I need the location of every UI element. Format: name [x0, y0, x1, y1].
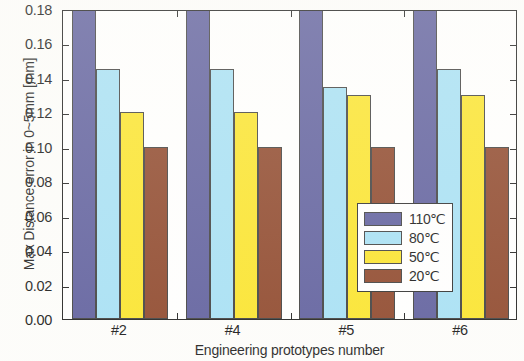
y-axis-tick-mark	[63, 149, 69, 150]
bar	[258, 147, 282, 319]
legend-item: 80℃	[364, 229, 446, 247]
y-axis-tick-mark	[510, 149, 516, 150]
x-axis-tick-label: #4	[225, 322, 241, 338]
x-axis-tick-mark	[177, 313, 178, 319]
bar	[72, 10, 96, 319]
y-axis-tick-label: 0.04	[25, 243, 52, 259]
bar	[144, 147, 168, 319]
legend-item: 50℃	[364, 248, 446, 266]
bar-chart-figure: Max Distance error in 0~5mm [mm] 0.000.0…	[0, 0, 524, 361]
x-axis-tick-mark	[404, 11, 405, 17]
y-axis-tick-mark	[63, 183, 69, 184]
y-axis-tick-label: 0.08	[25, 174, 52, 190]
y-axis-tick-mark	[63, 287, 69, 288]
x-axis-tick-mark	[291, 313, 292, 319]
y-axis-tick-mark	[510, 287, 516, 288]
y-axis-tick-label: 0.10	[25, 140, 52, 156]
legend-swatch	[364, 231, 402, 245]
legend-label: 80℃	[409, 230, 440, 246]
y-axis-tick-label: 0.06	[25, 209, 52, 225]
bar	[186, 10, 210, 319]
bar	[323, 87, 347, 320]
y-axis-tick-mark	[510, 218, 516, 219]
y-axis-tick-label: 0.12	[25, 105, 52, 121]
legend-swatch	[364, 212, 402, 226]
legend-label: 110℃	[409, 211, 446, 227]
y-axis-tick-label: 0.18	[25, 2, 52, 18]
y-axis-tick-label: 0.14	[25, 71, 52, 87]
x-axis-tick-label: #6	[452, 322, 468, 338]
legend-item: 110℃	[364, 210, 446, 228]
y-axis-tick-mark	[63, 218, 69, 219]
y-axis-tick-label: 0.02	[25, 278, 52, 294]
legend-item: 20℃	[364, 267, 446, 285]
x-axis-tick-label: #5	[339, 322, 355, 338]
y-axis-tick-labels: 0.000.020.040.060.080.100.120.140.160.18	[0, 0, 62, 361]
legend-label: 50℃	[409, 249, 440, 265]
legend-swatch	[364, 250, 402, 264]
x-axis-tick-mark	[291, 11, 292, 17]
bar	[96, 69, 120, 319]
bar	[120, 112, 144, 319]
y-axis-tick-mark	[510, 114, 516, 115]
legend: 110℃80℃50℃20℃	[357, 203, 453, 292]
x-axis-tick-mark	[404, 313, 405, 319]
x-axis-tick-mark	[177, 11, 178, 17]
bar	[461, 95, 485, 319]
y-axis-tick-mark	[63, 114, 69, 115]
bar	[299, 10, 323, 319]
y-axis-tick-mark	[510, 183, 516, 184]
y-axis-tick-mark	[510, 252, 516, 253]
y-axis-tick-mark	[63, 252, 69, 253]
y-axis-tick-mark	[63, 45, 69, 46]
x-axis-tick-label: #2	[111, 322, 127, 338]
x-axis-tick-labels: #2#4#5#6	[62, 322, 517, 344]
y-axis-tick-mark	[63, 80, 69, 81]
bar	[210, 69, 234, 319]
y-axis-tick-mark	[510, 80, 516, 81]
legend-label: 20℃	[409, 268, 440, 284]
x-axis-title: Engineering prototypes number	[62, 342, 517, 358]
bar	[234, 112, 258, 319]
y-axis-tick-mark	[510, 45, 516, 46]
legend-swatch	[364, 269, 402, 283]
y-axis-tick-label: 0.16	[25, 36, 52, 52]
y-axis-tick-label: 0.00	[25, 312, 52, 328]
bar	[485, 147, 509, 319]
